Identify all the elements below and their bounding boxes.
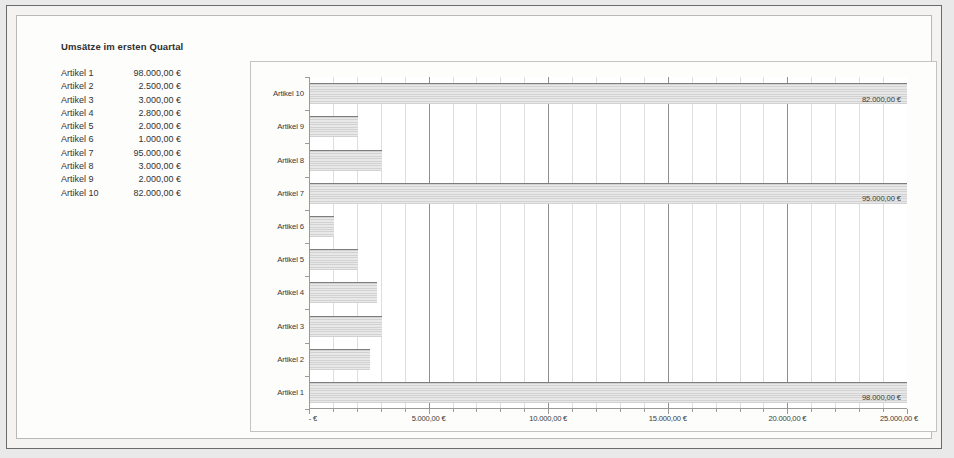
table-cell-label: Artikel 1 — [61, 68, 123, 81]
y-axis-tick — [305, 177, 309, 178]
table-cell-value: 3.000,00 € — [123, 95, 183, 108]
table-row: Artikel 10 82.000,00 € — [61, 188, 183, 201]
table-row: Artikel 2 2.500,00 € — [61, 81, 183, 94]
gridline-minor — [524, 77, 525, 409]
x-axis-tick-label: 20.000,00 € — [768, 414, 806, 423]
chart-container[interactable]: Artikel 1Artikel 2Artikel 3Artikel 4Arti… — [250, 61, 937, 432]
y-axis-tick — [305, 243, 309, 244]
x-axis-tick — [644, 409, 645, 412]
table-row: Artikel 6 1.000,00 € — [61, 134, 183, 147]
table-cell-label: Artikel 9 — [61, 174, 123, 187]
table-cell-label: Artikel 4 — [61, 108, 123, 121]
table-cell-value: 1.000,00 € — [123, 134, 183, 147]
table-cell-label: Artikel 2 — [61, 81, 123, 94]
table-cell-value: 2.500,00 € — [123, 81, 183, 94]
chart-bar[interactable] — [310, 382, 907, 403]
x-axis-tick — [620, 409, 621, 412]
gridline-minor — [740, 77, 741, 409]
gridline-major — [668, 77, 669, 409]
chart-gridlines — [309, 77, 907, 409]
gridline-minor — [381, 77, 382, 409]
x-axis-tick — [692, 409, 693, 412]
gridline-minor — [572, 77, 573, 409]
x-axis-tick — [476, 409, 477, 412]
x-axis-tick — [883, 409, 884, 412]
chart-category-label: Artikel 4 — [277, 288, 304, 297]
table-row: Artikel 5 2.000,00 € — [61, 121, 183, 134]
chart-data-label: 82.000,00 € — [862, 95, 901, 104]
gridline-minor — [763, 77, 764, 409]
gridline-minor — [716, 77, 717, 409]
chart-category-label: Artikel 8 — [277, 156, 304, 165]
chart-bar[interactable] — [310, 116, 358, 137]
table-row: Artikel 1 98.000,00 € — [61, 68, 183, 81]
chart-plot-area: 98.000,00 €95.000,00 €82.000,00 € — [309, 77, 907, 409]
chart-bar[interactable] — [310, 282, 377, 303]
chart-category-label: Artikel 1 — [277, 388, 304, 397]
x-axis-tick — [357, 409, 358, 412]
data-table-body: Artikel 1 98.000,00 € Artikel 2 2.500,00… — [61, 68, 183, 201]
gridline-minor — [644, 77, 645, 409]
chart-bar[interactable] — [310, 249, 358, 270]
gridline-minor — [453, 77, 454, 409]
page-outer-border: Umsätze im ersten Quartal Artikel 1 98.0… — [6, 5, 942, 449]
gridline-minor — [835, 77, 836, 409]
chart-bar[interactable] — [310, 349, 370, 370]
x-axis-tick — [524, 409, 525, 412]
gridline-major — [429, 77, 430, 409]
table-row: Artikel 9 2.000,00 € — [61, 174, 183, 187]
table-cell-value: 2.800,00 € — [123, 108, 183, 121]
x-axis-tick — [763, 409, 764, 412]
table-cell-label: Artikel 7 — [61, 148, 123, 161]
table-cell-value: 3.000,00 € — [123, 161, 183, 174]
x-axis-tick — [381, 409, 382, 412]
table-cell-label: Artikel 6 — [61, 134, 123, 147]
gridline-minor — [883, 77, 884, 409]
page-inner-border: Umsätze im ersten Quartal Artikel 1 98.0… — [16, 15, 932, 439]
gridline-minor — [859, 77, 860, 409]
x-axis-tick — [405, 409, 406, 412]
table-cell-label: Artikel 10 — [61, 188, 123, 201]
chart-bar[interactable] — [310, 216, 334, 237]
page-title: Umsätze im ersten Quartal — [61, 41, 183, 52]
x-axis-tick-label: 5.000,00 € — [412, 414, 446, 423]
chart-category-label: Artikel 6 — [277, 222, 304, 231]
y-axis-tick — [305, 77, 309, 78]
table-row: Artikel 8 3.000,00 € — [61, 161, 183, 174]
chart-data-label: 95.000,00 € — [862, 194, 901, 203]
gridline-minor — [692, 77, 693, 409]
x-axis-tick — [716, 409, 717, 412]
chart-category-label: Artikel 3 — [277, 322, 304, 331]
chart-bar[interactable] — [310, 183, 907, 204]
y-axis-tick — [305, 110, 309, 111]
x-axis-tick — [500, 409, 501, 412]
table-cell-value: 82.000,00 € — [123, 188, 183, 201]
y-axis-tick — [305, 376, 309, 377]
x-axis-tick-label: 15.000,00 € — [649, 414, 687, 423]
chart-bar[interactable] — [310, 150, 382, 171]
x-axis-tick — [333, 409, 334, 412]
gridline-minor — [500, 77, 501, 409]
table-row: Artikel 4 2.800,00 € — [61, 108, 183, 121]
chart-x-axis-line — [309, 408, 907, 409]
table-cell-value: 95.000,00 € — [123, 148, 183, 161]
y-axis-tick — [305, 309, 309, 310]
table-row: Artikel 7 95.000,00 € — [61, 148, 183, 161]
y-axis-tick — [305, 276, 309, 277]
chart-bar[interactable] — [310, 316, 382, 337]
x-axis-tick — [596, 409, 597, 412]
table-cell-value: 2.000,00 € — [123, 121, 183, 134]
y-axis-tick — [305, 343, 309, 344]
chart-x-axis-labels: - €5.000,00 €10.000,00 €15.000,00 €20.00… — [309, 414, 907, 430]
gridline-major — [548, 77, 549, 409]
x-axis-tick — [572, 409, 573, 412]
x-axis-tick — [740, 409, 741, 412]
chart-bar[interactable] — [310, 83, 907, 104]
x-axis-tick — [835, 409, 836, 412]
gridline-minor — [405, 77, 406, 409]
table-cell-label: Artikel 8 — [61, 161, 123, 174]
chart-data-label: 98.000,00 € — [862, 393, 901, 402]
chart-category-label: Artikel 5 — [277, 255, 304, 264]
x-axis-tick — [453, 409, 454, 412]
table-cell-label: Artikel 3 — [61, 95, 123, 108]
